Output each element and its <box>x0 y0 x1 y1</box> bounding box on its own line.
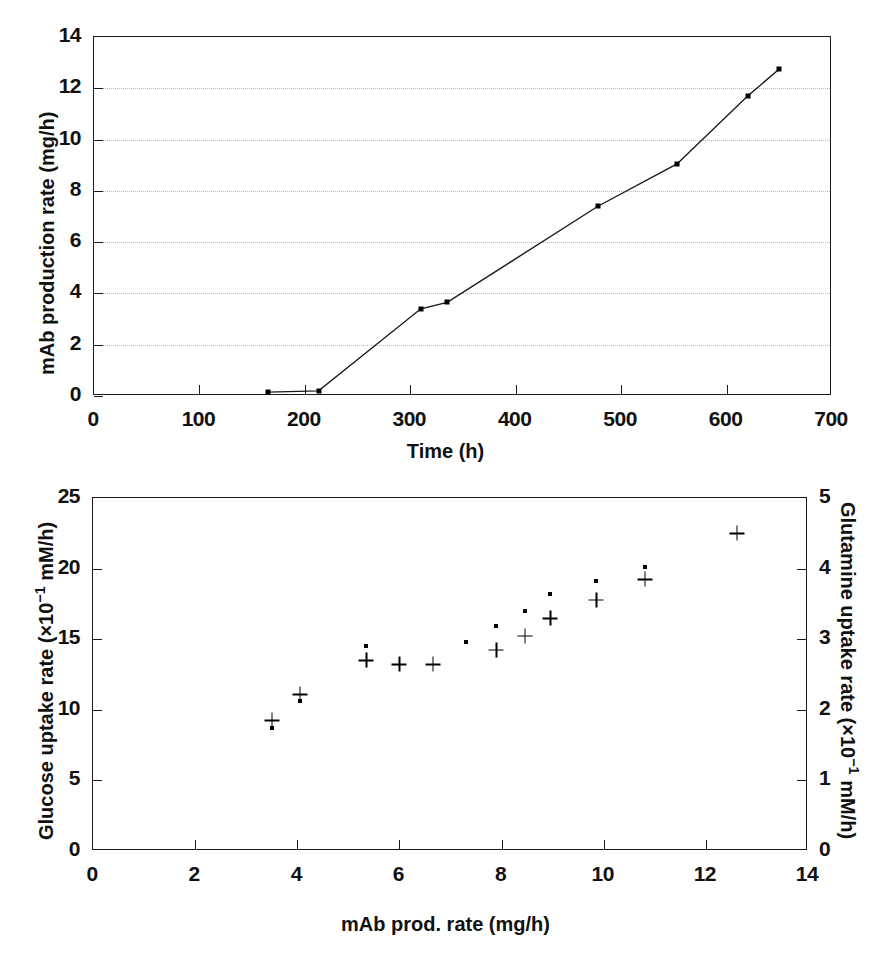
bottom-chart-x-axis-title: mAb prod. rate (mg/h) <box>0 913 891 936</box>
ylabel-left-text-b: mM/h) <box>35 522 57 586</box>
top-chart-x-tick-label: 600 <box>709 407 743 431</box>
bottom-chart-y-tick-label-left: 5 <box>69 766 80 790</box>
bottom-chart-y-tick-left <box>93 639 102 640</box>
bottom-chart-y-tick-label-right: 4 <box>819 555 830 579</box>
top-chart-y-tick <box>94 396 103 397</box>
bottom-chart-y-tick-label-right: 3 <box>819 625 830 649</box>
bottom-chart-x-tick-label: 8 <box>495 862 506 886</box>
top-chart-data-point <box>777 67 782 72</box>
bottom-chart-glucose-point <box>594 579 598 583</box>
top-chart-y-tick-label: 10 <box>59 126 81 150</box>
bottom-chart-glutamine-point <box>489 642 504 657</box>
bottom-chart-y-tick-label-left: 0 <box>69 837 80 861</box>
ylabel-right-text-a: Glutamine uptake rate (×10 <box>837 502 859 758</box>
bottom-chart-x-tick <box>399 840 400 849</box>
bottom-scatter-chart-panel: Glucose uptake rate (×10−1 mM/h) Glutami… <box>0 470 891 955</box>
top-chart-data-point <box>675 161 680 166</box>
top-line-chart-panel: mAb production rate (mg/h) Time (h) 0246… <box>0 0 891 470</box>
ylabel-left-exponent: −1 <box>32 586 48 602</box>
top-chart-y-axis-title: mAb production rate (mg/h) <box>36 112 59 375</box>
bottom-chart-x-tick-label: 2 <box>189 862 200 886</box>
bottom-chart-y-tick-label-right: 0 <box>819 837 830 861</box>
bottom-chart-glutamine-point <box>589 592 604 607</box>
bottom-chart-y-tick-label-left: 15 <box>58 625 80 649</box>
bottom-chart-glutamine-point <box>392 656 407 671</box>
bottom-chart-glutamine-point <box>543 611 558 626</box>
top-chart-y-tick-label: 8 <box>70 177 81 201</box>
bottom-chart-x-tick <box>195 840 196 849</box>
bottom-chart-x-tick-label: 6 <box>393 862 404 886</box>
top-chart-y-tick-label: 0 <box>70 382 81 406</box>
bottom-chart-y-tick-label-right: 2 <box>819 696 830 720</box>
bottom-chart-x-tick <box>706 840 707 849</box>
top-chart-y-tick-label: 4 <box>70 279 81 303</box>
bottom-chart-x-tick <box>502 840 503 849</box>
top-chart-x-tick-label: 300 <box>393 407 427 431</box>
bottom-chart-y-tick-left <box>93 780 102 781</box>
bottom-chart-glutamine-point <box>359 653 374 668</box>
bottom-chart-glucose-point <box>364 644 368 648</box>
bottom-chart-glutamine-point <box>264 713 279 728</box>
bottom-chart-glucose-point <box>643 565 647 569</box>
top-chart-x-tick-label: 400 <box>498 407 532 431</box>
bottom-chart-x-tick <box>297 840 298 849</box>
bottom-chart-y-tick-right <box>797 639 806 640</box>
ylabel-right-text-b: mM/h) <box>837 775 859 839</box>
top-chart-data-point <box>265 390 270 395</box>
bottom-chart-glucose-point <box>464 640 468 644</box>
top-chart-y-tick-label: 6 <box>70 228 81 252</box>
bottom-chart-glutamine-point <box>517 628 532 643</box>
bottom-chart-glutamine-point <box>729 526 744 541</box>
ylabel-left-text-a: Glucose uptake rate (×10 <box>35 603 57 840</box>
bottom-chart-glucose-point <box>548 592 552 596</box>
top-chart-y-tick-label: 2 <box>70 331 81 355</box>
bottom-chart-y-tick-label-right: 5 <box>819 484 830 508</box>
figure-root: mAb production rate (mg/h) Time (h) 0246… <box>0 0 891 955</box>
top-chart-x-tick-label: 500 <box>603 407 637 431</box>
bottom-chart-x-tick-label: 14 <box>796 862 818 886</box>
bottom-chart-y-tick-right <box>797 710 806 711</box>
top-chart-x-tick-label: 200 <box>287 407 321 431</box>
top-chart-x-tick-label: 0 <box>87 407 98 431</box>
top-chart-data-point <box>418 306 423 311</box>
bottom-chart-y-axis-left-title: Glucose uptake rate (×10−1 mM/h) <box>32 522 58 840</box>
bottom-chart-y-tick-label-right: 1 <box>819 766 830 790</box>
bottom-chart-x-tick-label: 0 <box>86 862 97 886</box>
top-chart-data-point <box>745 93 750 98</box>
bottom-chart-y-axis-right-title: Glutamine uptake rate (×10−1 mM/h) <box>836 502 862 839</box>
top-chart-y-tick-label: 14 <box>59 23 81 47</box>
bottom-chart-x-tick-label: 4 <box>291 862 302 886</box>
bottom-chart-x-tick-label: 12 <box>694 862 716 886</box>
top-chart-x-axis-title: Time (h) <box>0 440 891 463</box>
bottom-chart-plot-area <box>92 497 807 850</box>
bottom-chart-glutamine-point <box>637 572 652 587</box>
top-chart-data-point <box>445 300 450 305</box>
top-chart-y-tick-label: 12 <box>59 74 81 98</box>
bottom-chart-y-tick-right <box>797 780 806 781</box>
bottom-chart-glucose-point <box>523 609 527 613</box>
bottom-chart-glucose-point <box>494 624 498 628</box>
top-chart-x-tick-label: 100 <box>182 407 216 431</box>
bottom-chart-y-tick-label-left: 25 <box>58 484 80 508</box>
bottom-chart-y-tick-left <box>93 710 102 711</box>
bottom-chart-y-tick-label-left: 10 <box>58 696 80 720</box>
top-chart-data-point <box>595 204 600 209</box>
ylabel-right-exponent: −1 <box>846 758 862 774</box>
bottom-chart-y-tick-label-left: 20 <box>58 555 80 579</box>
bottom-chart-y-tick-right <box>797 569 806 570</box>
top-chart-series-line <box>94 37 832 396</box>
bottom-chart-x-tick <box>604 840 605 849</box>
top-chart-plot-area <box>93 36 831 395</box>
top-chart-x-tick-label: 700 <box>814 407 848 431</box>
top-chart-data-point <box>316 388 321 393</box>
bottom-chart-glutamine-point <box>292 687 307 702</box>
bottom-chart-x-tick-label: 10 <box>592 862 614 886</box>
bottom-chart-y-tick-left <box>93 569 102 570</box>
bottom-chart-glutamine-point <box>425 656 440 671</box>
